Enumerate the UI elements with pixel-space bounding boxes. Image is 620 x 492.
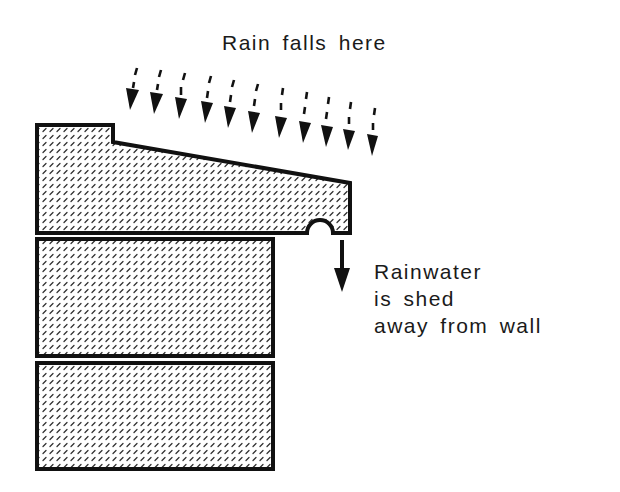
- side-label-line-3: away from wall: [374, 315, 542, 342]
- rain-arrow-icon: [275, 88, 287, 138]
- rainwater-shed-label: Rainwater is shed away from wall: [374, 261, 542, 342]
- rain-falls-label: Rain falls here: [222, 32, 387, 53]
- coping-diagram: [0, 0, 620, 492]
- drip-arrow-icon: [334, 240, 350, 292]
- rain-arrow-icon: [248, 84, 260, 133]
- wall-block-2: [37, 363, 273, 469]
- rain-arrow-icon: [175, 73, 187, 119]
- rain-arrow-icon: [367, 108, 378, 156]
- side-label-line-2: is shed: [374, 288, 542, 315]
- side-label-line-1: Rainwater: [374, 261, 542, 288]
- wall-block-1: [37, 239, 273, 356]
- rain-arrow-icon: [126, 68, 139, 110]
- rain-arrow-icon: [343, 102, 355, 150]
- rain-arrow-icon: [150, 70, 163, 114]
- rain-arrow-icon: [201, 76, 213, 123]
- rain-arrow-icon: [321, 97, 333, 147]
- rain-arrow-icon: [224, 80, 236, 128]
- rain-arrow-icon: [299, 92, 311, 143]
- rain-arrows: [126, 68, 378, 156]
